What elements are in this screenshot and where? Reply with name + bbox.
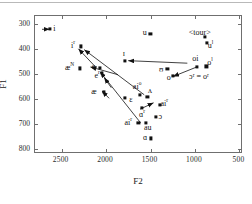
data-point-marker: [79, 67, 82, 70]
data-point-marker: [123, 59, 126, 62]
x-axis-title: F2: [133, 176, 143, 186]
text-annotation: ɔʳ = oʳ: [189, 73, 209, 81]
vowel-shift-arrow: [100, 72, 140, 123]
data-point-marker: [196, 65, 199, 68]
vowel-label: o: [167, 74, 171, 82]
x-tick-label: 1500: [142, 155, 158, 164]
data-point-marker: [149, 32, 152, 35]
data-point-marker: [146, 95, 149, 98]
data-point-marker: [137, 121, 140, 124]
data-point-marker: [103, 91, 106, 94]
vowel-label: ɪ: [123, 50, 125, 58]
vowel-label: au: [144, 124, 152, 132]
vowel-label: æ: [91, 88, 96, 96]
vowel-label: æN: [65, 64, 74, 72]
vowel-label: ol: [207, 59, 213, 67]
data-point-marker: [154, 116, 157, 119]
vowel-label: ɛ: [129, 96, 132, 104]
x-tick-label: 2500: [53, 155, 69, 164]
x-tick-label: 2000: [97, 155, 113, 164]
data-point-marker: [124, 97, 127, 100]
data-point-marker: [172, 74, 175, 77]
vowel-label: ɔ: [158, 113, 162, 121]
vowel-label: er: [94, 72, 99, 80]
data-point-marker: [166, 67, 169, 70]
data-point-marker: [79, 45, 82, 48]
data-point-marker: [48, 28, 51, 31]
vowel-label: air: [160, 100, 168, 108]
vowel-label: oi: [192, 55, 198, 63]
vowel-shift-arrow: [128, 61, 187, 64]
data-point-marker: [100, 71, 103, 74]
vowel-label: air: [124, 119, 132, 127]
vowel-shift-arrow: [104, 78, 111, 88]
x-tick-label: 1000: [186, 155, 202, 164]
vowel-label: ir: [71, 42, 75, 50]
data-point-marker: [149, 137, 152, 140]
figure-canvas: 2500200015001000500 300400500600700800 i…: [0, 0, 252, 204]
vowel-label: aio: [133, 83, 141, 91]
y-axis-title: F1: [0, 79, 8, 89]
vowel-label: ul: [208, 42, 214, 50]
data-point-marker: [138, 93, 141, 96]
vowel-label: ʊ: [159, 66, 163, 74]
vowel-label: ɑ: [143, 134, 147, 142]
vowel-label: u: [143, 29, 147, 37]
vowel-label: ɑr: [139, 111, 145, 119]
x-tick-label: 500: [233, 155, 245, 164]
vowel-label: ʌ: [148, 87, 152, 95]
text-annotation: <tour>: [189, 29, 211, 37]
connector-lines-layer: [0, 0, 252, 204]
vowel-label: i: [53, 25, 55, 33]
